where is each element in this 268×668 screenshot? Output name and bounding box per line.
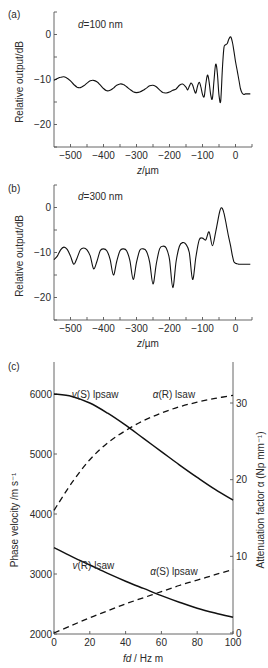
- x-tick-label: −400: [92, 323, 115, 334]
- y-tick-label-right: 30: [236, 398, 248, 409]
- panel-c-annotations: v(S) lpsawα(R) lsawv(R) lsawα(S) lpsaw: [72, 389, 199, 577]
- y-tick-label-left: 5000: [30, 449, 53, 460]
- x-tick-label: −500: [59, 323, 82, 334]
- panel-b-xlabel: z/µm: [136, 338, 159, 349]
- panel-c-axes: 020406080100200030004000500060000102030: [30, 362, 248, 648]
- panel-c-label: (c): [8, 361, 20, 372]
- x-tick-label: −400: [92, 150, 115, 161]
- y-tick-label: 0: [45, 202, 51, 213]
- panel-a-ylabel: Relative output/dB: [14, 41, 25, 123]
- panel-a-curve: [54, 37, 250, 103]
- panel-a-label: (a): [8, 9, 20, 20]
- x-tick-label: 60: [156, 637, 168, 648]
- panel-a: (a) d=100 nm Relative output/dB −500−400…: [8, 9, 252, 176]
- x-tick-label: −200: [158, 323, 181, 334]
- y-tick-label-left: 2000: [30, 629, 53, 640]
- x-tick-label: −100: [191, 323, 214, 334]
- y-tick-label: −20: [34, 119, 51, 130]
- x-tick-label: 0: [233, 150, 239, 161]
- panel-c: (c) Phase velocity /m s⁻¹ Attenuation fa…: [8, 361, 266, 664]
- y-tick-label-left: 6000: [30, 389, 53, 400]
- y-tick-label: −20: [34, 292, 51, 303]
- curve-v-s-lpsaw: [54, 394, 233, 500]
- panel-c-xlabel: fd / Hz m: [123, 653, 163, 664]
- panel-a-axes: −500−400−300−200−10000−10−20: [34, 12, 252, 161]
- panel-b-label: (b): [8, 183, 20, 194]
- axis-lines: [54, 362, 233, 634]
- axis-lines: [54, 185, 252, 320]
- panel-b-axes: −500−400−300−200−10000−10−20: [34, 185, 252, 334]
- panel-b-annotation: d=300 nm: [78, 191, 123, 202]
- x-tick-label: 0: [233, 323, 239, 334]
- x-tick-label: −300: [125, 150, 148, 161]
- panel-b-ylabel: Relative output/dB: [14, 215, 25, 297]
- y-tick-label: −10: [34, 74, 51, 85]
- x-tick-label: 100: [225, 637, 242, 648]
- panel-c-curves: [54, 394, 233, 633]
- curve-annotation: v(S) lpsaw: [72, 389, 119, 400]
- y-tick-label: −10: [34, 247, 51, 258]
- panel-c-ylabel-right: Attenuation factor α (Np mm⁻¹): [255, 432, 266, 569]
- panel-b-curve: [54, 208, 250, 288]
- x-tick-label: −300: [125, 323, 148, 334]
- curve-v-r-lsaw: [54, 548, 233, 618]
- x-tick-label: −100: [191, 150, 214, 161]
- figure: (a) d=100 nm Relative output/dB −500−400…: [0, 0, 268, 668]
- curve-annotation: α(S) lpsaw: [150, 566, 198, 577]
- y-tick-label-right: 20: [236, 474, 248, 485]
- panel-a-xlabel: z/µm: [136, 165, 159, 176]
- curve-annotation: α(R) lsaw: [153, 389, 196, 400]
- x-tick-label: −200: [158, 150, 181, 161]
- panel-b: (b) d=300 nm Relative output/dB −500−400…: [8, 183, 252, 349]
- y-tick-label-left: 3000: [30, 569, 53, 580]
- x-tick-label: 20: [84, 637, 96, 648]
- curve--s-lpsaw: [54, 569, 233, 633]
- y-tick-label: 0: [45, 29, 51, 40]
- x-tick-label: 80: [192, 637, 204, 648]
- x-tick-label: 0: [51, 637, 57, 648]
- y-tick-label-left: 4000: [30, 509, 53, 520]
- y-tick-label-right: 0: [236, 628, 242, 639]
- x-tick-label: −500: [59, 150, 82, 161]
- panel-c-ylabel-left: Phase velocity /m s⁻¹: [9, 472, 20, 567]
- y-tick-label-right: 10: [236, 551, 248, 562]
- curve--r-lsaw: [54, 395, 233, 510]
- curve-annotation: v(R) lsaw: [73, 560, 115, 571]
- panel-a-annotation: d=100 nm: [78, 19, 123, 30]
- x-tick-label: 40: [120, 637, 132, 648]
